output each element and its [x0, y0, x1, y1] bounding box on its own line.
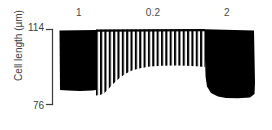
- plot-graphics: [0, 0, 272, 130]
- figure-panel: 1 0.2 2 114 76 Cell length (µm): [0, 0, 272, 130]
- left-solid-block: [60, 30, 97, 91]
- y-axis-bracket: [47, 30, 53, 105]
- striped-band: [94, 28, 207, 100]
- right-solid-block: [205, 29, 255, 98]
